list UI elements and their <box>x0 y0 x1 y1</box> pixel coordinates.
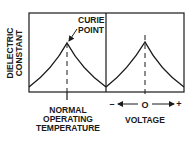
voltage-plus-sign: + <box>176 99 181 109</box>
voltage-zero: O <box>141 100 148 110</box>
temperature-label-line3: TEMPERATURE <box>36 123 100 133</box>
dielectric-constant-diagram: DIELECTRIC CONSTANT CURIE POINT NORMAL O… <box>0 0 193 142</box>
curie-point-arrow <box>69 29 77 41</box>
voltage-label: VOLTAGE <box>125 115 165 125</box>
voltage-panel: + --> – O + VOLTAGE <box>106 35 184 125</box>
temperature-panel: CURIE POINT NORMAL OPERATING TEMPERATURE <box>29 15 106 133</box>
curie-label-line2: POINT <box>78 25 105 35</box>
voltage-minus-sign: – <box>109 99 114 109</box>
y-axis-label: DIELECTRIC CONSTANT <box>5 28 24 79</box>
y-axis-label-line2: CONSTANT <box>14 29 24 76</box>
curie-label-line1: CURIE <box>78 15 105 25</box>
